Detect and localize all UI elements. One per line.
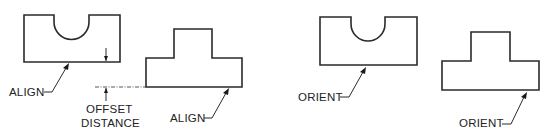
t-block-left: [146, 29, 242, 87]
align-label-1: ALIGN: [9, 86, 45, 98]
diagram-svg: ALIGN OFFSET DISTANCE ALIGN ORIENT ORIEN…: [0, 0, 548, 134]
align-panel: ALIGN OFFSET DISTANCE ALIGN: [9, 15, 242, 129]
constraint-diagram: ALIGN OFFSET DISTANCE ALIGN ORIENT ORIEN…: [0, 0, 548, 134]
offset-arrowhead-bottom: [104, 88, 108, 93]
offset-label: OFFSET: [86, 103, 133, 115]
orient-arrowhead-2: [521, 92, 527, 99]
distance-label: DISTANCE: [81, 117, 140, 129]
orient-label-1: ORIENT: [298, 91, 343, 103]
align-label-2: ALIGN: [170, 112, 206, 124]
orient-leader-1: [340, 72, 363, 97]
align-leader-2: [204, 93, 226, 118]
orient-leader-2: [502, 97, 524, 124]
align-arrowhead-2: [223, 88, 229, 95]
u-notch-block-right: [320, 17, 417, 65]
t-block-right: [442, 32, 539, 90]
orient-label-2: ORIENT: [459, 117, 504, 129]
orient-panel: ORIENT ORIENT: [298, 17, 539, 129]
align-leader-1: [44, 68, 66, 92]
align-arrowhead-1: [63, 63, 69, 70]
orient-arrowhead-1: [360, 67, 366, 74]
offset-arrowhead-top: [104, 56, 108, 61]
